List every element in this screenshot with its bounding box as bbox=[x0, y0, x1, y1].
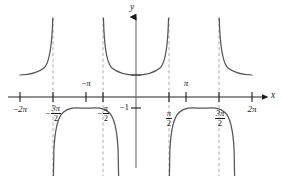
numerator: π bbox=[103, 104, 109, 113]
denominator: 2 bbox=[166, 118, 172, 128]
numerator: 3π bbox=[51, 104, 62, 113]
x-tick-label-neg-3pi-over-2: − 3π 2 bbox=[37, 103, 69, 123]
fraction-wrap: π 2 bbox=[166, 109, 172, 128]
fraction: π 2 bbox=[166, 109, 172, 128]
denominator: 2 bbox=[215, 118, 226, 128]
y-axis-label: y bbox=[130, 3, 134, 13]
branch-upper-right-outer bbox=[219, 18, 252, 75]
numerator: 3π bbox=[215, 109, 226, 118]
x-axis-label: x bbox=[271, 91, 275, 101]
value-glyph: 2π bbox=[247, 104, 256, 114]
x-tick-label-pos-pi-over-2: π 2 bbox=[157, 103, 181, 128]
denominator: 2 bbox=[103, 113, 109, 123]
branch-upper-left-outer bbox=[20, 18, 53, 75]
fraction-wrap: 3π 2 bbox=[215, 109, 226, 128]
x-tick-label-pos-pi: π bbox=[177, 79, 195, 88]
fraction-wrap: − 3π 2 bbox=[45, 104, 61, 123]
value-glyph: π bbox=[86, 78, 91, 88]
x-tick-label-pos-2pi: 2π bbox=[241, 105, 263, 114]
y-tick-label-neg-1: −1 bbox=[111, 103, 129, 112]
denominator: 2 bbox=[51, 113, 62, 123]
x-tick-label-neg-2pi: −2π bbox=[6, 105, 34, 114]
plot-canvas bbox=[0, 0, 282, 176]
secant-function-graph: y x −2π − 3π 2 −π − π 2 π 2 bbox=[0, 0, 282, 176]
numerator: π bbox=[166, 109, 172, 118]
fraction-wrap: − π 2 bbox=[97, 104, 109, 123]
fraction: π 2 bbox=[103, 104, 109, 123]
fraction: 3π 2 bbox=[51, 104, 62, 123]
x-tick-label-pos-3pi-over-2: 3π 2 bbox=[207, 103, 233, 128]
value-glyph: 2π bbox=[18, 104, 27, 114]
value-glyph: π bbox=[184, 78, 189, 88]
fraction: 3π 2 bbox=[215, 109, 226, 128]
x-tick-label-neg-pi: −π bbox=[72, 79, 100, 88]
